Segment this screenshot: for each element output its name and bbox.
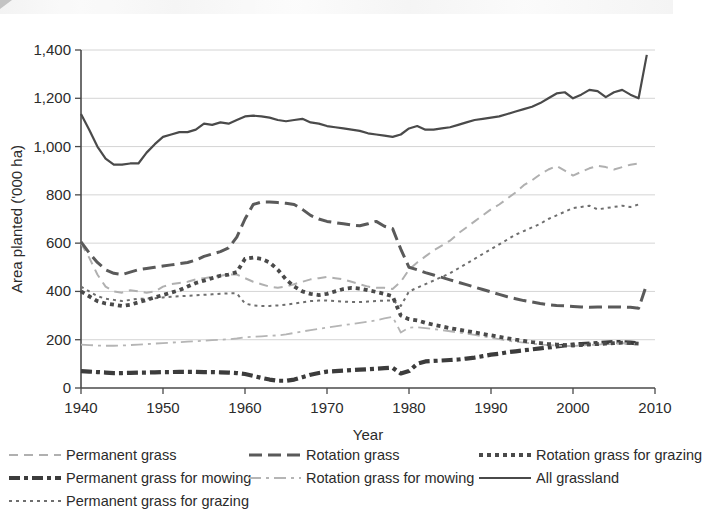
- y-axis-title: Area planted ('000 ha): [8, 145, 25, 293]
- series-line: [81, 163, 639, 292]
- y-axis-ticks: 02004006008001,0001,2001,400: [33, 41, 81, 396]
- legend-label: Rotation grass: [306, 448, 400, 462]
- legend-swatch-icon: [8, 494, 62, 508]
- x-tick-label: 1940: [64, 399, 97, 416]
- legend-item: Permanent grass: [8, 448, 176, 462]
- x-axis-ticks: 19401950196019701980199020002010: [64, 388, 671, 416]
- legend-item: Permanent grass for grazing: [8, 494, 249, 508]
- chart-legend: Permanent grassRotation grassRotation gr…: [0, 446, 673, 520]
- legend-swatch-icon: [478, 471, 532, 485]
- x-tick-label: 1960: [228, 399, 261, 416]
- series-line: [81, 55, 647, 165]
- legend-label: Rotation grass for mowing: [306, 471, 474, 485]
- y-tick-label: 400: [46, 282, 71, 299]
- y-tick-label: 800: [46, 186, 71, 203]
- x-tick-label: 1970: [310, 399, 343, 416]
- series-line: [81, 317, 639, 346]
- legend-label: Permanent grass for mowing: [66, 471, 251, 485]
- line-chart-svg: 02004006008001,0001,2001,400 19401950196…: [0, 0, 673, 446]
- y-tick-label: 1,400: [33, 41, 71, 58]
- legend-label: All grassland: [536, 471, 619, 485]
- x-tick-label: 1950: [146, 399, 179, 416]
- legend-swatch-icon: [8, 448, 62, 462]
- series-line: [81, 205, 639, 306]
- legend-item: Rotation grass for grazing: [478, 448, 702, 462]
- legend-swatch-icon: [478, 448, 532, 462]
- legend-label: Rotation grass for grazing: [536, 448, 702, 462]
- x-tick-label: 1990: [474, 399, 507, 416]
- legend-label: Permanent grass for grazing: [66, 494, 249, 508]
- legend-label: Permanent grass: [66, 448, 176, 462]
- y-tick-label: 1,000: [33, 138, 71, 155]
- legend-item: Rotation grass: [248, 448, 400, 462]
- series-line: [81, 342, 639, 381]
- y-tick-label: 200: [46, 331, 71, 348]
- x-axis-title: Year: [353, 426, 383, 443]
- x-tick-label: 1980: [392, 399, 425, 416]
- gridlines: [81, 50, 655, 340]
- y-tick-label: 600: [46, 234, 71, 251]
- y-tick-label: 0: [63, 379, 71, 396]
- legend-swatch-icon: [8, 471, 62, 485]
- legend-item: All grassland: [478, 471, 619, 485]
- data-series-group: [81, 55, 647, 381]
- legend-swatch-icon: [248, 471, 302, 485]
- legend-item: Rotation grass for mowing: [248, 471, 474, 485]
- legend-item: Permanent grass for mowing: [8, 471, 251, 485]
- y-tick-label: 1,200: [33, 89, 71, 106]
- x-tick-label: 2010: [638, 399, 671, 416]
- x-tick-label: 2000: [556, 399, 589, 416]
- legend-swatch-icon: [248, 448, 302, 462]
